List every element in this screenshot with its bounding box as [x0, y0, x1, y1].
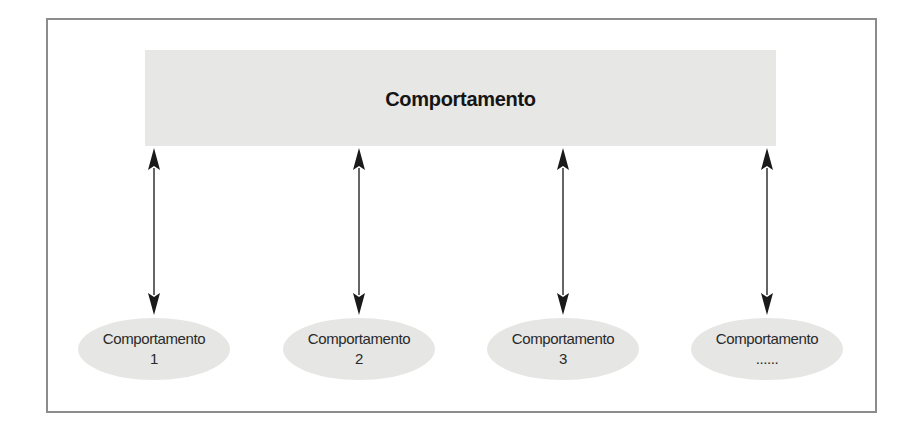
node-number: 1 — [150, 349, 158, 369]
node-number: 3 — [559, 349, 567, 369]
behavior-node-1: Comportamento 1 — [78, 318, 230, 380]
node-label: Comportamento — [103, 329, 205, 349]
node-label: Comportamento — [512, 329, 614, 349]
behavior-node-2: Comportamento 2 — [283, 318, 435, 380]
node-ellipsis: ...... — [756, 349, 779, 369]
node-number: 2 — [355, 349, 363, 369]
top-behavior-label: Comportamento — [385, 88, 536, 111]
top-behavior-box: Comportamento — [145, 50, 776, 146]
node-label: Comportamento — [308, 329, 410, 349]
behavior-node-3: Comportamento 3 — [487, 318, 639, 380]
node-label: Comportamento — [716, 329, 818, 349]
behavior-node-more: Comportamento ...... — [691, 318, 843, 380]
